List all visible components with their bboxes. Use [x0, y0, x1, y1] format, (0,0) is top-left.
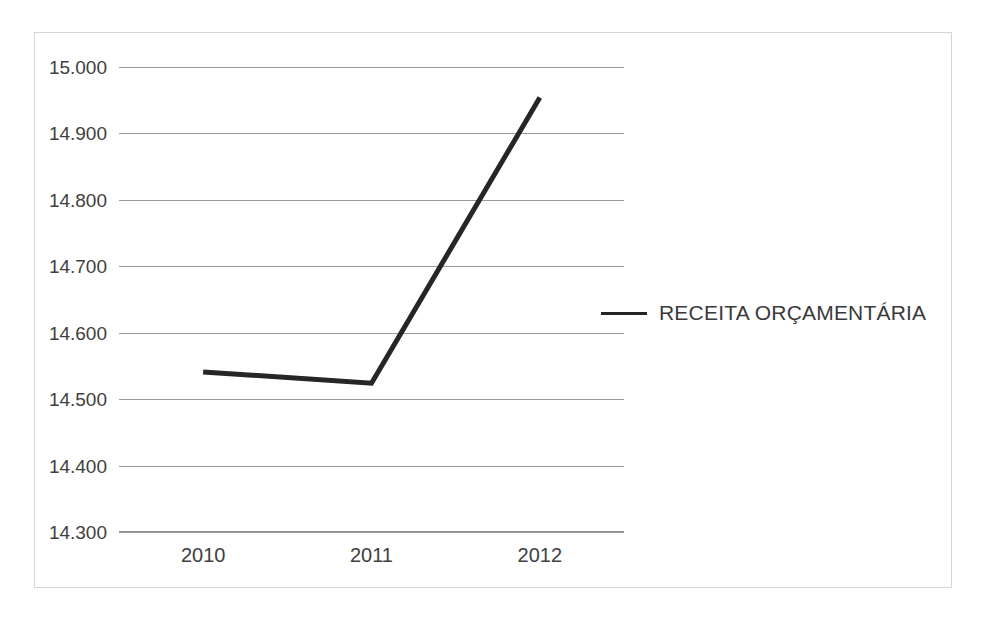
- y-tick-label: 14.900: [49, 124, 107, 143]
- y-tick-label: 14.400: [49, 456, 107, 475]
- legend-label: RECEITA ORÇAMENTÁRIA: [659, 301, 926, 325]
- y-tick-label: 15.000: [49, 58, 107, 77]
- plot-area: [119, 67, 624, 532]
- y-tick-label: 14.500: [49, 390, 107, 409]
- legend-line-marker: [601, 312, 647, 315]
- y-tick-label: 14.800: [49, 190, 107, 209]
- x-tick-label: 2010: [119, 543, 287, 573]
- y-axis-labels: 15.00014.90014.80014.70014.60014.50014.4…: [35, 67, 107, 532]
- x-tick-label: 2011: [287, 543, 455, 573]
- y-tick-label: 14.300: [49, 523, 107, 542]
- x-tick-label: 2012: [456, 543, 624, 573]
- series-line-chart: [119, 67, 624, 532]
- chart-frame: 15.00014.90014.80014.70014.60014.50014.4…: [34, 32, 952, 588]
- y-tick-label: 14.700: [49, 257, 107, 276]
- y-tick-label: 14.600: [49, 323, 107, 342]
- gridline: [119, 532, 624, 533]
- chart-legend: RECEITA ORÇAMENTÁRIA: [601, 301, 926, 325]
- x-axis-labels: 201020112012: [119, 543, 624, 573]
- series-line: [203, 98, 540, 384]
